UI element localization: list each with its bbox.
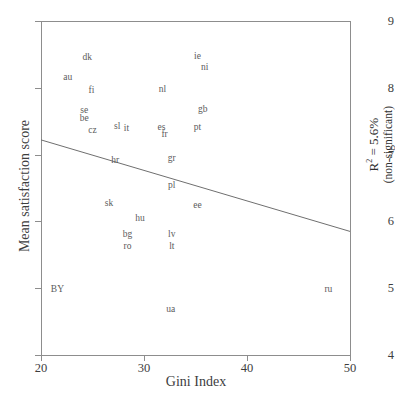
point-label-dk: dk — [83, 53, 93, 63]
point-label-gr: gr — [168, 155, 176, 165]
point-label-ro: ro — [124, 242, 132, 252]
point-label-ua: ua — [166, 305, 175, 315]
point-label-fi: fi — [89, 86, 95, 96]
x-axis-title: Gini Index — [41, 374, 351, 390]
plot-frame-right — [350, 21, 351, 356]
y-tick-label-4: 4 — [366, 349, 394, 362]
point-label-ru: ru — [324, 285, 332, 295]
point-label-hu: hu — [135, 214, 145, 224]
y-axis-line — [41, 21, 42, 356]
significance-note: (non-significant) — [383, 65, 395, 225]
point-label-gb: gb — [198, 105, 208, 115]
point-label-nl: nl — [159, 86, 166, 96]
point-label-au: au — [63, 74, 72, 84]
point-label-hr: hr — [111, 157, 119, 167]
x-tick-label-50: 50 — [335, 362, 365, 375]
point-label-be: be — [80, 114, 89, 124]
y-tick-label-5: 5 — [366, 282, 394, 295]
point-label-sl: sl — [114, 122, 120, 132]
r-exponent: 2 — [365, 159, 374, 163]
y-tick-6 — [35, 221, 41, 222]
y-tick-7 — [35, 155, 41, 156]
r-symbol: R — [366, 163, 381, 172]
point-label-BY: BY — [51, 285, 64, 295]
point-label-cz: cz — [88, 126, 96, 136]
y-tick-9 — [35, 21, 41, 22]
point-label-ni: ni — [201, 63, 208, 73]
cropped-title-sliver — [0, 0, 394, 9]
point-label-ie: ie — [194, 52, 201, 62]
point-label-lv: lv — [168, 230, 175, 240]
x-tick-label-40: 40 — [232, 362, 262, 375]
x-tick-label-30: 30 — [129, 362, 159, 375]
point-label-pt: pt — [194, 123, 201, 133]
point-label-it: it — [124, 124, 129, 134]
point-label-fr: fr — [161, 130, 167, 140]
plot-frame-top — [41, 21, 351, 22]
y-tick-label-9: 9 — [366, 15, 394, 28]
point-label-bg: bg — [123, 230, 133, 240]
point-label-sk: sk — [105, 199, 113, 209]
x-axis-line — [41, 355, 351, 356]
y-tick-5 — [35, 288, 41, 289]
point-label-pl: pl — [168, 181, 175, 191]
y-axis-title: Mean satisfaction score — [17, 76, 33, 296]
point-label-lt: lt — [169, 242, 174, 252]
r-squared-value: R2 = 5.6% — [365, 65, 381, 225]
r-squared-number: = 5.6% — [366, 118, 381, 156]
x-tick-label-20: 20 — [26, 362, 56, 375]
r-squared-annotation: R2 = 5.6% (non-significant) — [365, 65, 394, 225]
y-tick-8 — [35, 88, 41, 89]
point-label-ee: ee — [193, 201, 201, 211]
